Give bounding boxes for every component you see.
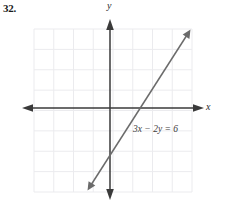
grid-lines (34, 29, 192, 192)
axis-label-x: x (206, 101, 210, 113)
axis-label-y: y (107, 0, 111, 12)
figure-page: 32. (0, 0, 229, 202)
coordinate-plane-graph (0, 0, 229, 202)
equation-label: 3x − 2y = 6 (133, 123, 178, 135)
